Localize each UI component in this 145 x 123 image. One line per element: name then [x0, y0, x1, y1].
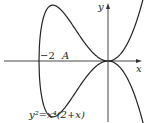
equation-label: y²=x⁴(2+x): [28, 109, 85, 120]
curve-path: [39, 0, 144, 123]
x-axis-label: x: [136, 63, 142, 74]
y-axis-arrow-icon: [106, 3, 110, 9]
tick-label-neg2: −2: [40, 50, 55, 61]
y-axis-label: y: [97, 1, 104, 12]
curve-diagram: −2 A x y y²=x⁴(2+x): [0, 0, 145, 123]
point-label-a: A: [61, 50, 69, 61]
